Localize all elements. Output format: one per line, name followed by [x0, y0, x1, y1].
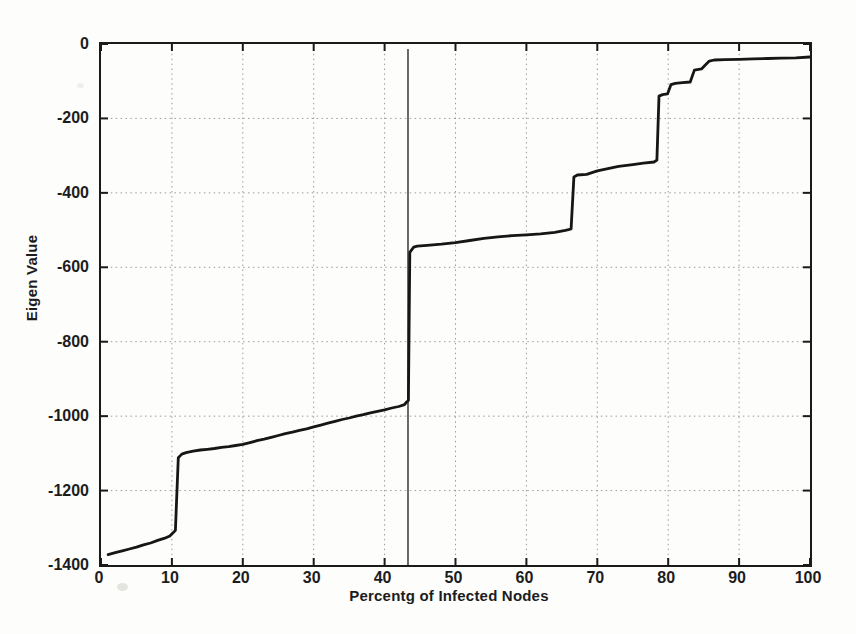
x-tick-label: 0 — [95, 569, 104, 587]
plot-area — [99, 42, 812, 567]
line-chart-canvas — [101, 44, 810, 565]
x-tick-label: 60 — [515, 569, 533, 587]
x-tick-label: 90 — [728, 569, 746, 587]
y-tick-label: 0 — [80, 35, 94, 53]
scan-speck — [117, 583, 128, 591]
y-tick-labels: 0-200-400-600-800-1000-1200-1400 — [0, 42, 94, 565]
x-tick-labels: 0102030405060708090100 — [0, 569, 856, 589]
x-tick-label: 50 — [445, 569, 463, 587]
y-tick-label: -600 — [57, 258, 94, 276]
y-tick-label: -400 — [57, 184, 94, 202]
eigenvalue-curve — [108, 57, 810, 555]
x-tick-label: 100 — [795, 569, 822, 587]
x-tick-label: 30 — [303, 569, 321, 587]
x-tick-label: 40 — [374, 569, 392, 587]
figure: Eigen Value 0102030405060708090100 0-200… — [0, 0, 856, 634]
x-tick-label: 80 — [657, 569, 675, 587]
y-tick-label: -1000 — [48, 407, 94, 425]
y-tick-label: -1200 — [48, 482, 94, 500]
x-axis-label: Percentg of Infected Nodes — [99, 587, 799, 604]
x-tick-label: 10 — [161, 569, 179, 587]
x-tick-label: 20 — [232, 569, 250, 587]
x-tick-label: 70 — [586, 569, 604, 587]
y-tick-label: -200 — [57, 109, 94, 127]
scan-speck — [77, 83, 84, 88]
y-tick-label: -1400 — [48, 556, 94, 574]
y-tick-label: -800 — [57, 333, 94, 351]
